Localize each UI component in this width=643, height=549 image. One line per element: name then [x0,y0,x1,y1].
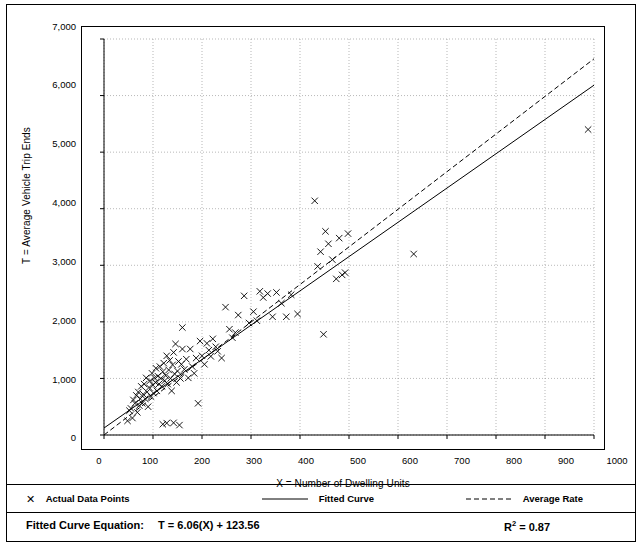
footer-divider [7,512,635,513]
x-tick-label-900: 900 [546,455,586,466]
y-tick-label-1000: 1,000 [36,374,76,385]
x-tick-label-0: 0 [79,455,119,466]
x-tick-label-700: 700 [442,455,482,466]
x-tick-label-200: 200 [182,455,222,466]
legend-label-actual-data-points: Actual Data Points [46,493,130,504]
fitted-curve-equation: Fitted Curve Equation: T = 6.06(X) + 123… [26,519,260,531]
x-tick-label-300: 300 [234,455,274,466]
y-tick-label-7000: 7,000 [36,21,76,32]
scatter-plot-svg [82,27,604,449]
chart-legend: ✕ Actual Data Points Fitted Curve Averag… [14,490,628,512]
fitted-curve-equation-label: Fitted Curve Equation: [26,519,144,531]
x-tick-label-1000: 1000 [597,455,637,466]
chart-page: T = Average Vehicle Trip Ends 7,000 6,00… [0,0,643,549]
y-axis-title: T = Average Vehicle Trip Ends [21,66,32,326]
solid-line-icon [262,494,308,505]
r-squared-value: R2 = 0.87 [504,519,550,533]
y-tick-label-6000: 6,000 [36,79,76,90]
legend-label-average-rate: Average Rate [523,493,583,504]
legend-entry-average-rate: Average Rate [466,493,583,505]
x-marker-icon: ✕ [26,493,35,506]
y-tick-label-0: 0 [36,432,76,443]
fitted-curve-equation-value: T = 6.06(X) + 123.56 [158,519,260,531]
legend-entry-actual-data-points: ✕ Actual Data Points [26,493,130,506]
y-tick-label-3000: 3,000 [36,256,76,267]
y-tick-label-4000: 4,000 [36,197,76,208]
y-tick-label-5000: 5,000 [36,138,76,149]
legend-entry-fitted-curve: Fitted Curve [262,493,374,505]
x-tick-label-400: 400 [286,455,326,466]
x-tick-label-800: 800 [494,455,534,466]
legend-label-fitted-curve: Fitted Curve [319,493,374,504]
x-tick-label-600: 600 [390,455,430,466]
r-squared-number: = 0.87 [516,521,550,533]
y-tick-label-2000: 2,000 [36,315,76,326]
chart-footer: Fitted Curve Equation: T = 6.06(X) + 123… [14,519,628,539]
x-tick-label-500: 500 [338,455,378,466]
x-tick-label-100: 100 [130,455,170,466]
legend-top-divider [7,484,635,485]
dashed-line-icon [466,494,512,505]
plot-area [81,26,605,450]
r-squared-label: R [504,521,512,533]
